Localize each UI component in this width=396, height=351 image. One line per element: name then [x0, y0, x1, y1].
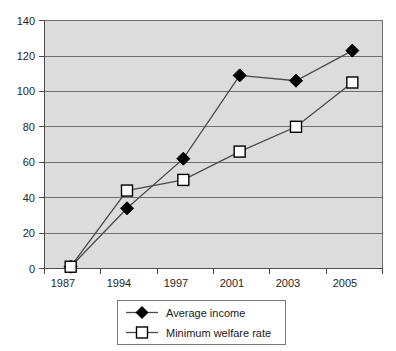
data-point-marker: [347, 77, 358, 88]
plot-area-background: [45, 21, 383, 269]
y-tick-label-60: 60: [23, 156, 35, 168]
x-tick-label-1987: 1987: [51, 277, 75, 289]
x-tick-label-2001: 2001: [220, 277, 244, 289]
chart-legend: Average income Minimum welfare rate: [118, 301, 286, 345]
y-tick-label-100: 100: [17, 85, 35, 97]
y-axis-tick-labels: 140 120 100 80 60 40 20 0: [17, 15, 35, 275]
x-tick-label-1997: 1997: [164, 277, 188, 289]
y-tick-label-40: 40: [23, 192, 35, 204]
line-chart: 140 120 100 80 60 40 20 0 1987 1994 1997…: [0, 0, 396, 351]
x-tick-label-1994: 1994: [107, 277, 131, 289]
y-tick-label-120: 120: [17, 50, 35, 62]
legend-entry-minimum-welfare-rate[interactable]: Minimum welfare rate: [126, 327, 271, 339]
legend-label-minimum-welfare-rate: Minimum welfare rate: [166, 327, 271, 339]
chart-canvas: 140 120 100 80 60 40 20 0 1987 1994 1997…: [0, 0, 396, 351]
data-point-marker: [291, 121, 302, 132]
legend-marker-square: [137, 327, 148, 338]
y-tick-label-140: 140: [17, 15, 35, 27]
data-point-marker: [178, 174, 189, 185]
x-tick-label-2005: 2005: [333, 277, 357, 289]
x-tick-marks: [45, 269, 383, 275]
legend-label-average-income: Average income: [166, 307, 245, 319]
y-tick-label-20: 20: [23, 227, 35, 239]
data-point-marker: [65, 261, 76, 272]
y-tick-marks: [39, 21, 45, 269]
y-tick-label-80: 80: [23, 121, 35, 133]
x-axis-tick-labels: 1987 1994 1997 2001 2003 2005: [51, 277, 357, 289]
data-point-marker: [122, 185, 133, 196]
legend-entry-average-income[interactable]: Average income: [126, 307, 245, 319]
y-tick-label-0: 0: [29, 263, 35, 275]
data-point-marker: [234, 146, 245, 157]
x-tick-label-2003: 2003: [276, 277, 300, 289]
